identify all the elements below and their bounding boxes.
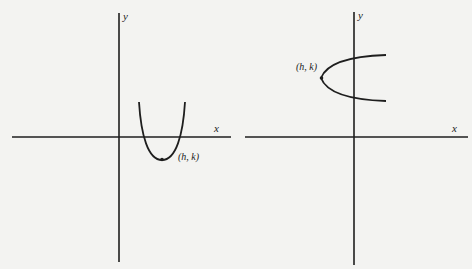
left-figure: y x (h, k)	[12, 10, 231, 262]
left-vertex-label: (h, k)	[178, 151, 200, 163]
left-y-axis-label: y	[122, 10, 128, 22]
left-x-axis-label: x	[213, 122, 219, 134]
right-figure: y x (h, k)	[245, 9, 468, 265]
right-y-axis-label: y	[357, 9, 363, 21]
right-vertex-label: (h, k)	[296, 61, 318, 73]
right-vertex-point	[320, 76, 324, 80]
left-vertex-point	[160, 158, 164, 162]
right-x-axis-label: x	[451, 122, 457, 134]
diagram-canvas: y x (h, k) y x (h, k)	[0, 0, 472, 269]
